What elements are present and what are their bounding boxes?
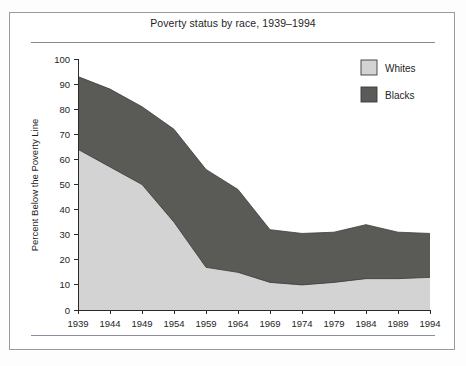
chart-plot: 0102030405060708090100 19391944194919541…	[0, 0, 466, 366]
legend: Whites Blacks	[361, 60, 416, 102]
y-tick-label: 70	[59, 129, 70, 140]
x-tick-label: 1974	[291, 318, 312, 329]
x-tick-label: 1979	[323, 318, 344, 329]
y-tick-label: 50	[59, 179, 70, 190]
y-axis-title: Percent Below the Poverty Line	[29, 119, 40, 252]
y-tick-label: 10	[59, 279, 70, 290]
legend-swatch-blacks	[361, 87, 377, 102]
legend-swatch-whites	[361, 60, 377, 75]
y-tick-label: 40	[59, 204, 70, 215]
legend-entry-blacks[interactable]: Blacks	[361, 87, 414, 102]
y-tick-label: 100	[54, 54, 70, 65]
x-tick-label: 1964	[227, 318, 248, 329]
y-tick-label: 20	[59, 254, 70, 265]
x-tick-label: 1959	[195, 318, 216, 329]
x-tick-label: 1939	[67, 318, 88, 329]
x-axis-ticks	[78, 310, 430, 314]
y-tick-label: 30	[59, 229, 70, 240]
legend-label-blacks: Blacks	[385, 90, 414, 101]
x-tick-label: 1954	[163, 318, 184, 329]
x-tick-label: 1994	[419, 318, 440, 329]
y-axis-tick-labels: 0102030405060708090100	[54, 54, 70, 316]
y-tick-label: 0	[65, 305, 70, 316]
x-axis-tick-labels: 1939194419491954195919641969197419791984…	[67, 318, 440, 329]
x-tick-label: 1969	[259, 318, 280, 329]
x-tick-label: 1949	[131, 318, 152, 329]
y-tick-label: 80	[59, 104, 70, 115]
legend-entry-whites[interactable]: Whites	[361, 60, 416, 75]
x-tick-label: 1989	[387, 318, 408, 329]
y-axis-ticks	[74, 59, 78, 310]
legend-label-whites: Whites	[385, 63, 416, 74]
area-series-group	[78, 77, 430, 310]
x-tick-label: 1944	[99, 318, 120, 329]
y-tick-label: 90	[59, 79, 70, 90]
y-tick-label: 60	[59, 154, 70, 165]
page-root: Poverty status by race, 1939–1994 010203…	[0, 0, 466, 366]
x-tick-label: 1984	[355, 318, 376, 329]
